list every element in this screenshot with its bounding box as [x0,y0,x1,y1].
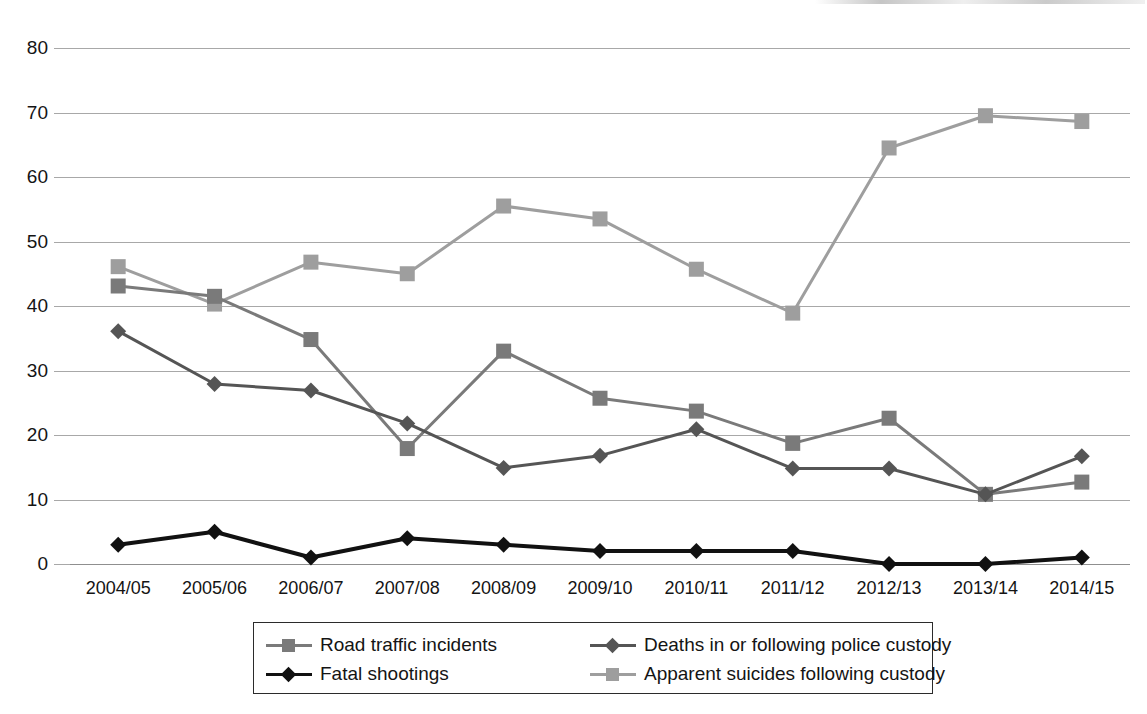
gridline [70,306,1130,307]
legend-marker-square-icon [266,637,312,653]
legend-label: Deaths in or following police custody [644,634,951,656]
y-axis-tick [54,500,70,501]
y-axis-tick [54,564,70,565]
y-axis-tick-label: 10 [0,490,48,509]
y-axis-tick-label: 40 [0,296,48,315]
x-axis-tick-label: 2010/11 [641,578,751,598]
x-axis-tick-label: 2008/09 [449,578,559,598]
legend-label: Road traffic incidents [320,634,497,656]
line-chart: Road traffic incidents Deaths in or foll… [0,0,1147,714]
legend-row: Fatal shootings Apparent suicides follow… [266,659,920,688]
legend-key-diamond-icon [605,637,621,653]
x-axis-tick-label: 2009/10 [545,578,655,598]
y-axis-tick [54,371,70,372]
gridline [70,371,1130,372]
chart-legend: Road traffic incidents Deaths in or foll… [253,622,933,694]
x-axis-tick-label: 2007/08 [352,578,462,598]
y-axis-tick-label: 70 [0,103,48,122]
y-axis-tick [54,242,70,243]
x-axis-tick-label: 2011/12 [738,578,848,598]
legend-marker-diamond-icon [590,637,636,653]
y-axis-tick [54,113,70,114]
gridline [70,564,1130,565]
y-axis-tick [54,435,70,436]
y-axis-tick [54,306,70,307]
gridline [70,113,1130,114]
legend-label: Apparent suicides following custody [644,663,945,685]
legend-entry-road-traffic-incidents[interactable]: Road traffic incidents [266,630,590,659]
legend-label: Fatal shootings [320,663,449,685]
x-axis-tick-label: 2012/13 [834,578,944,598]
plot-area [70,48,1130,564]
x-axis-tick-label: 2006/07 [256,578,366,598]
y-axis-tick [54,48,70,49]
legend-entry-apparent-suicides[interactable]: Apparent suicides following custody [590,659,920,688]
x-axis-tick-label: 2013/14 [930,578,1040,598]
gridline [70,48,1130,49]
y-axis-tick-label: 30 [0,361,48,380]
y-axis-tick-label: 60 [0,167,48,186]
legend-key-diamond-icon [281,666,297,682]
legend-marker-diamond-icon [266,666,312,682]
gridline [70,435,1130,436]
scan-artifact [815,0,1145,4]
x-axis-tick-label: 2014/15 [1027,578,1137,598]
gridline [70,242,1130,243]
legend-entry-fatal-shootings[interactable]: Fatal shootings [266,659,590,688]
y-axis-tick-label: 0 [0,554,48,573]
gridline [70,177,1130,178]
x-axis-tick-label: 2004/05 [63,578,173,598]
y-axis-tick-label: 50 [0,232,48,251]
gridline [70,500,1130,501]
legend-entry-deaths-in-custody[interactable]: Deaths in or following police custody [590,630,920,659]
legend-key-square-icon [606,668,619,681]
legend-row: Road traffic incidents Deaths in or foll… [266,630,920,659]
y-axis-tick-label: 20 [0,425,48,444]
y-axis-tick [54,177,70,178]
x-axis-tick-label: 2005/06 [160,578,270,598]
y-axis-tick-label: 80 [0,38,48,57]
legend-marker-square-icon [590,666,636,682]
legend-key-square-icon [282,639,295,652]
